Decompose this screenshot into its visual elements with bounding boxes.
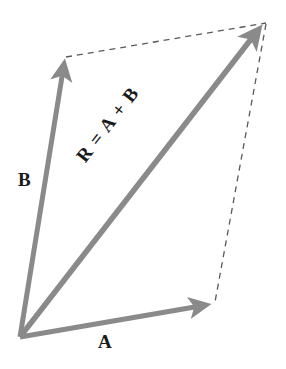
vector-b-arrow bbox=[20, 71, 63, 337]
dashed-construction-line-right bbox=[215, 24, 266, 302]
vector-a-label: A bbox=[98, 332, 112, 351]
dashed-construction-line-top bbox=[66, 23, 266, 57]
vector-diagram: A B R = A + B bbox=[0, 0, 286, 369]
vector-b-label: B bbox=[18, 170, 31, 189]
resultant-vector-arrow bbox=[20, 35, 254, 337]
vector-canvas bbox=[0, 0, 286, 369]
